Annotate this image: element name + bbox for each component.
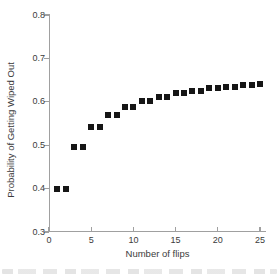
chart-figure: Probability of Getting Wiped Out 0510152… (0, 0, 279, 274)
data-point-square (156, 94, 162, 100)
x-tick-mark (175, 227, 176, 232)
data-point-square (206, 85, 212, 91)
data-point-square (198, 88, 204, 94)
data-point-square (88, 124, 94, 130)
y-tick-label: 0.8 (20, 10, 45, 21)
x-tick-label: 25 (248, 235, 272, 246)
x-axis-title: Number of flips (49, 248, 266, 259)
data-point-square (215, 85, 221, 91)
data-point-square (54, 186, 60, 192)
y-tick-label: 0.5 (20, 140, 45, 151)
x-tick-label: 10 (121, 235, 145, 246)
x-tick-mark (133, 227, 134, 232)
data-point-square (164, 94, 170, 100)
y-tick-label: 0.7 (20, 53, 45, 64)
x-axis-line (49, 231, 266, 232)
x-tick-mark (259, 227, 260, 232)
data-point-square (240, 82, 246, 88)
data-point-square (130, 104, 136, 110)
data-point-square (105, 112, 111, 118)
data-point-square (63, 186, 69, 192)
data-point-square (232, 84, 238, 90)
x-tick-label: 5 (79, 235, 103, 246)
data-point-square (181, 90, 187, 96)
x-tick-mark (48, 227, 49, 232)
y-axis-title: Probability of Getting Wiped Out (5, 62, 16, 198)
data-point-square (114, 112, 120, 118)
x-tick-label: 20 (206, 235, 230, 246)
data-point-square (139, 98, 145, 104)
data-point-square (122, 104, 128, 110)
x-tick-mark (217, 227, 218, 232)
x-tick-mark (91, 227, 92, 232)
data-point-square (257, 81, 263, 87)
data-point-square (223, 84, 229, 90)
data-point-square (80, 144, 86, 150)
y-axis-line (49, 14, 50, 232)
clipped-caption-fragment (2, 269, 277, 274)
y-tick-label: 0.4 (20, 183, 45, 194)
data-point-square (249, 82, 255, 88)
x-tick-label: 15 (164, 235, 188, 246)
data-point-square (189, 88, 195, 94)
data-point-square (71, 144, 77, 150)
data-point-square (173, 90, 179, 96)
y-tick-label: 0.3 (20, 227, 45, 238)
data-point-square (147, 98, 153, 104)
y-tick-label: 0.6 (20, 96, 45, 107)
data-point-square (97, 124, 103, 130)
